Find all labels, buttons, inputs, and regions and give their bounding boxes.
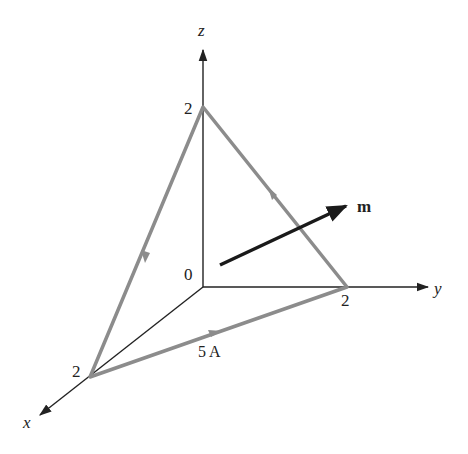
x-tick-label: 2 — [72, 362, 81, 381]
z-tick-label: 2 — [184, 99, 193, 118]
current-loop — [90, 107, 347, 377]
arrow-icon — [141, 250, 150, 263]
z-axis-label: z — [197, 21, 205, 40]
diagram-canvas: z y x 2 2 2 0 5 A m — [0, 0, 468, 454]
y-tick-label: 2 — [341, 291, 350, 310]
moment-vector — [220, 206, 346, 265]
moment-label: m — [357, 197, 371, 216]
current-label: 5 A — [198, 343, 221, 360]
y-axis-label: y — [432, 279, 442, 298]
origin-label: 0 — [184, 265, 193, 284]
x-axis-label: x — [22, 413, 31, 432]
